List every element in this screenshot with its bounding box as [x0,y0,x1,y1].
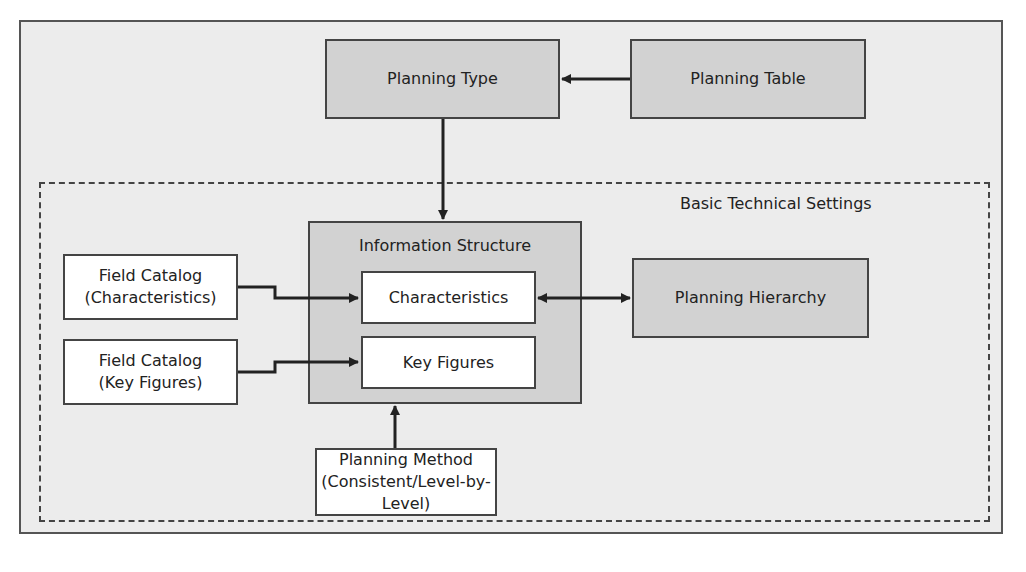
planning-table-label: Planning Table [690,68,805,90]
planning-method-line1: Planning Method [339,449,473,471]
key-figures-label: Key Figures [403,352,494,374]
planning-method-node: Planning Method (Consistent/Level-by-Lev… [315,448,497,516]
planning-type-label: Planning Type [387,68,498,90]
characteristics-label: Characteristics [389,287,509,309]
information-structure-label: Information Structure [359,235,531,257]
field-catalog-char-line2: (Characteristics) [84,287,216,309]
characteristics-node: Characteristics [361,271,536,324]
field-catalog-characteristics-node: Field Catalog (Characteristics) [63,254,238,320]
key-figures-node: Key Figures [361,336,536,389]
field-catalog-key-figures-node: Field Catalog (Key Figures) [63,339,238,405]
group-label: Basic Technical Settings [680,194,872,213]
field-catalog-kf-line2: (Key Figures) [99,372,203,394]
planning-method-line2: (Consistent/Level-by-Level) [317,471,495,515]
field-catalog-char-line1: Field Catalog [99,265,202,287]
planning-hierarchy-label: Planning Hierarchy [675,287,826,309]
field-catalog-kf-line1: Field Catalog [99,350,202,372]
planning-table-node: Planning Table [630,39,866,119]
planning-hierarchy-node: Planning Hierarchy [632,258,869,338]
planning-type-node: Planning Type [325,39,560,119]
